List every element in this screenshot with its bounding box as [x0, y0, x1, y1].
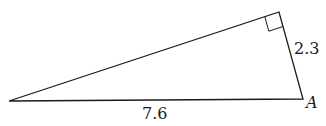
leg-length-label: 2.3	[294, 41, 319, 57]
triangle-shape	[9, 12, 303, 101]
vertex-a-label: A	[306, 95, 318, 111]
hypotenuse-length-label: 7.6	[142, 106, 167, 122]
triangle-diagram: 2.3 7.6 A	[0, 0, 326, 126]
